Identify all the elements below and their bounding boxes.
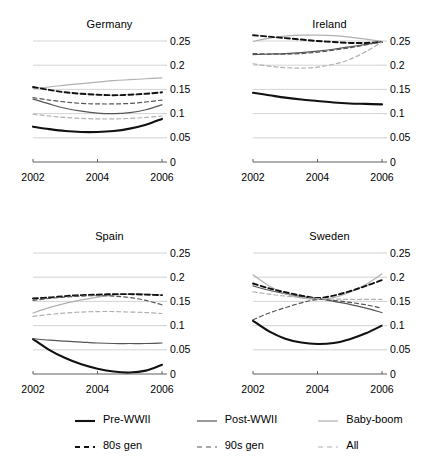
y-tick-label: 0.15 bbox=[390, 295, 411, 307]
x-tick-label: 2004 bbox=[306, 171, 330, 183]
series-line-gen90 bbox=[33, 98, 162, 104]
legend-line-icon bbox=[74, 413, 96, 425]
series-line-pre_wwii bbox=[253, 93, 382, 105]
y-tick-label: 0 bbox=[390, 368, 396, 380]
series-line-gen90 bbox=[253, 41, 382, 54]
panel-spain: Spain 00.050.10.150.20.25200220042006 bbox=[0, 212, 219, 412]
series-line-all bbox=[33, 114, 162, 119]
y-tick-label: 0.15 bbox=[170, 295, 191, 307]
legend-item-80s-gen: 80s gen bbox=[74, 439, 196, 451]
panel-sweden: Sweden 00.050.10.150.20.25200220042006 bbox=[220, 212, 439, 412]
x-tick-label: 2006 bbox=[370, 383, 394, 395]
legend-row: 80s gen 90s gen All bbox=[0, 432, 439, 458]
x-tick-label: 2006 bbox=[150, 383, 174, 395]
y-tick-label: 0 bbox=[390, 156, 396, 168]
legend-line-icon bbox=[196, 413, 218, 425]
y-tick-label: 0.2 bbox=[390, 271, 405, 283]
legend-item-pre-wwii: Pre-WWII bbox=[74, 413, 196, 425]
panel-germany: Germany 00.050.10.150.20.25200220042006 bbox=[0, 0, 219, 200]
legend-label: 80s gen bbox=[103, 439, 142, 451]
series-line-pre_wwii bbox=[253, 321, 382, 344]
panel-plot: 00.050.10.150.20.25200220042006 bbox=[0, 212, 219, 412]
y-tick-label: 0.1 bbox=[170, 107, 185, 119]
y-tick-label: 0.1 bbox=[390, 107, 405, 119]
y-tick-label: 0.2 bbox=[390, 59, 405, 71]
chart-legend: Pre-WWII Post-WWII Baby-boom 80s gen 90s… bbox=[0, 406, 439, 469]
y-tick-label: 0.15 bbox=[170, 83, 191, 95]
y-tick-label: 0.05 bbox=[170, 131, 191, 143]
series-line-gen80 bbox=[33, 294, 162, 298]
series-line-baby_boom bbox=[33, 78, 162, 89]
legend-label: Baby-boom bbox=[346, 413, 402, 425]
series-line-post_wwii bbox=[33, 99, 162, 114]
legend-label: Post-WWII bbox=[225, 413, 278, 425]
legend-line-icon bbox=[74, 439, 96, 451]
x-tick-label: 2006 bbox=[370, 171, 394, 183]
legend-label: All bbox=[346, 439, 358, 451]
legend-label: 90s gen bbox=[225, 439, 264, 451]
y-tick-label: 0.1 bbox=[390, 319, 405, 331]
legend-item-90s-gen: 90s gen bbox=[196, 439, 318, 451]
legend-line-icon bbox=[317, 413, 339, 425]
panel-plot: 00.050.10.150.20.25200220042006 bbox=[220, 0, 439, 200]
series-line-gen90 bbox=[253, 299, 382, 319]
legend-row: Pre-WWII Post-WWII Baby-boom bbox=[0, 406, 439, 432]
y-tick-label: 0 bbox=[170, 368, 176, 380]
legend-item-all: All bbox=[317, 439, 439, 451]
legend-line-icon bbox=[196, 439, 218, 451]
x-tick-label: 2002 bbox=[21, 383, 45, 395]
panel-plot: 00.050.10.150.20.25200220042006 bbox=[220, 212, 439, 412]
x-tick-label: 2006 bbox=[150, 171, 174, 183]
series-line-all bbox=[253, 42, 382, 68]
y-tick-label: 0.15 bbox=[390, 83, 411, 95]
y-tick-label: 0.25 bbox=[170, 35, 191, 47]
legend-label: Pre-WWII bbox=[103, 413, 151, 425]
x-tick-label: 2002 bbox=[241, 171, 265, 183]
legend-item-post-wwii: Post-WWII bbox=[196, 413, 318, 425]
legend-item-baby-boom: Baby-boom bbox=[317, 413, 439, 425]
series-line-pre_wwii bbox=[33, 339, 162, 372]
series-line-all bbox=[253, 292, 382, 300]
legend-line-icon bbox=[317, 439, 339, 451]
y-tick-label: 0.2 bbox=[170, 271, 185, 283]
x-tick-label: 2004 bbox=[306, 383, 330, 395]
y-tick-label: 0.25 bbox=[390, 35, 411, 47]
y-tick-label: 0.2 bbox=[170, 59, 185, 71]
x-tick-label: 2004 bbox=[86, 171, 110, 183]
x-tick-label: 2004 bbox=[86, 383, 110, 395]
series-line-gen80 bbox=[253, 280, 382, 298]
series-line-pre_wwii bbox=[33, 119, 162, 132]
y-tick-label: 0.25 bbox=[170, 247, 191, 259]
panel-ireland: Ireland 00.050.10.150.20.25200220042006 bbox=[220, 0, 439, 200]
y-tick-label: 0.05 bbox=[170, 343, 191, 355]
y-tick-label: 0.05 bbox=[390, 343, 411, 355]
x-tick-label: 2002 bbox=[241, 383, 265, 395]
y-tick-label: 0 bbox=[170, 156, 176, 168]
x-tick-label: 2002 bbox=[21, 171, 45, 183]
y-tick-label: 0.1 bbox=[170, 319, 185, 331]
series-line-post_wwii bbox=[33, 339, 162, 344]
y-tick-label: 0.05 bbox=[390, 131, 411, 143]
y-tick-label: 0.25 bbox=[390, 247, 411, 259]
figure-small-multiples: Germany 00.050.10.150.20.25200220042006 … bbox=[0, 0, 439, 469]
panel-plot: 00.050.10.150.20.25200220042006 bbox=[0, 0, 219, 200]
series-line-all bbox=[33, 312, 162, 317]
series-line-gen80 bbox=[33, 87, 162, 95]
